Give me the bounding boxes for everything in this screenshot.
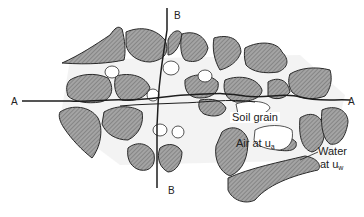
label-a-left: A — [11, 96, 18, 107]
label-b-top: B — [174, 10, 181, 21]
soil-grain-label: Soil grain — [230, 112, 280, 123]
soil-structure-figure — [0, 0, 364, 217]
water-label-line2: at uw — [320, 159, 343, 173]
label-b-bottom: B — [168, 185, 175, 196]
soil-diagram: A A B B Soil grain Air at ua Water at uw — [0, 0, 364, 217]
air-label: Air at ua — [236, 138, 275, 152]
label-a-right: A — [348, 96, 355, 107]
water-label-line1: Water — [318, 146, 347, 157]
